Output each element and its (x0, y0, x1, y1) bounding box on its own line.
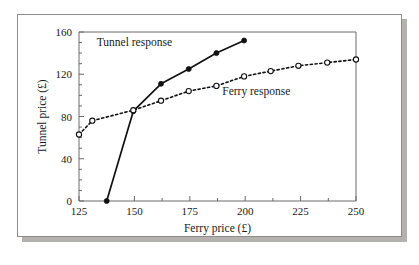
data-point-marker (214, 83, 219, 88)
data-point-marker (214, 51, 219, 56)
data-point-marker (158, 98, 163, 103)
data-point-marker (353, 57, 358, 62)
y-axis-title: Tunnel price (£) (36, 79, 49, 153)
data-point-marker (186, 67, 191, 72)
series-line-tunnel-response (107, 41, 244, 202)
axes-group: 04080120160125150175200225250 (56, 26, 365, 217)
data-point-marker (104, 199, 109, 204)
y-tick-label: 120 (56, 68, 73, 80)
series-annotation: Ferry response (222, 85, 290, 98)
data-point-marker (242, 38, 247, 43)
data-point-marker (325, 60, 330, 65)
data-point-marker (296, 63, 301, 68)
data-point-marker (186, 89, 191, 94)
x-axis-title: Ferry price (£) (184, 222, 251, 235)
series-line-ferry-response (79, 60, 356, 135)
data-point-marker (90, 118, 95, 123)
x-tick-label: 250 (348, 205, 365, 217)
data-point-marker (242, 74, 247, 79)
x-tick-label: 150 (126, 205, 143, 217)
data-point-marker (76, 132, 81, 137)
y-tick-label: 80 (61, 111, 73, 123)
figure-root: 04080120160125150175200225250 Tunnel res… (0, 0, 419, 265)
x-tick-label: 175 (182, 205, 199, 217)
chart-canvas: 04080120160125150175200225250 Tunnel res… (18, 15, 403, 238)
figure-frame: 04080120160125150175200225250 Tunnel res… (17, 14, 402, 237)
series-annotation: Tunnel response (97, 36, 172, 49)
y-tick-label: 40 (61, 153, 73, 165)
x-tick-label: 225 (292, 205, 309, 217)
y-tick-label: 160 (56, 26, 73, 38)
data-point-marker (268, 69, 273, 74)
x-tick-label: 125 (71, 205, 88, 217)
x-tick-label: 200 (237, 205, 254, 217)
series-group (76, 38, 358, 204)
data-point-marker (131, 108, 136, 113)
data-point-marker (159, 81, 164, 86)
